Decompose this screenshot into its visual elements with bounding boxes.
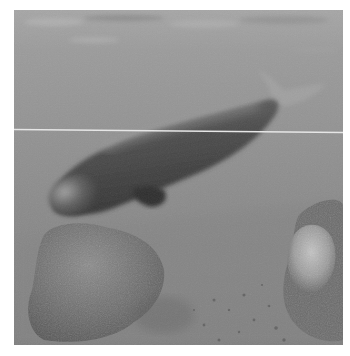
horizontal-scan-line bbox=[14, 129, 343, 131]
underwater-photo bbox=[14, 10, 343, 345]
